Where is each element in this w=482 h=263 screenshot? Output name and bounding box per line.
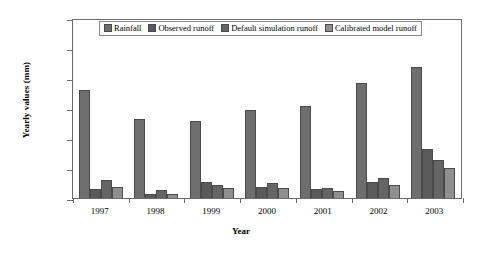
- bar-group: [350, 20, 405, 198]
- legend-swatch-icon: [325, 24, 333, 32]
- bar: [278, 188, 289, 199]
- bar: [333, 191, 344, 198]
- bar-group: [73, 20, 128, 198]
- x-tick-label: 2003: [404, 206, 464, 216]
- x-tick: [184, 198, 185, 203]
- bar: [300, 106, 311, 198]
- x-axis-title: Year: [0, 226, 482, 236]
- bar-group: [184, 20, 239, 198]
- bar: [389, 185, 400, 199]
- x-tick-label: 2002: [348, 206, 408, 216]
- x-tick-label: 2001: [293, 206, 353, 216]
- x-tick: [463, 198, 464, 203]
- bar: [367, 182, 378, 199]
- bar: [256, 187, 267, 198]
- bar: [322, 188, 333, 199]
- bar: [201, 182, 212, 198]
- bar: [156, 190, 167, 198]
- legend-label: Rainfall: [114, 24, 141, 33]
- legend-label: Calibrated model runoff: [335, 24, 417, 33]
- bar: [212, 185, 223, 199]
- bar: [422, 149, 433, 198]
- legend-swatch-icon: [148, 24, 156, 32]
- bar-group: [239, 20, 294, 198]
- bar: [90, 189, 101, 198]
- x-tick: [73, 198, 74, 203]
- bar: [112, 187, 123, 198]
- bar: [378, 178, 389, 198]
- bar: [267, 183, 278, 198]
- legend-item: Default simulation runoff: [221, 24, 318, 33]
- legend-swatch-icon: [104, 24, 112, 32]
- bar: [311, 189, 322, 198]
- legend-item: Rainfall: [104, 24, 141, 33]
- bar: [134, 119, 145, 198]
- bar: [101, 180, 112, 198]
- bar-group: [128, 20, 183, 198]
- bar: [444, 168, 455, 198]
- legend-label: Default simulation runoff: [231, 24, 318, 33]
- bar-groups: [73, 20, 461, 198]
- bar: [79, 90, 90, 198]
- x-tick-label: 1997: [70, 206, 130, 216]
- x-tick: [240, 198, 241, 203]
- bar-group: [295, 20, 350, 198]
- x-tick-label: 2000: [237, 206, 297, 216]
- bar: [167, 194, 178, 198]
- bar: [356, 83, 367, 199]
- x-tick: [296, 198, 297, 203]
- x-tick-label: 1998: [126, 206, 186, 216]
- bar: [433, 160, 444, 198]
- x-tick: [407, 198, 408, 203]
- bar: [411, 67, 422, 198]
- y-axis-title: Yearly values (mm): [21, 30, 31, 170]
- bar-group: [406, 20, 461, 198]
- x-tick: [129, 198, 130, 203]
- x-tick: [352, 198, 353, 203]
- plot-area: [72, 19, 462, 199]
- bar: [190, 121, 201, 198]
- bar: [223, 188, 234, 198]
- chart-legend: RainfallObserved runoffDefault simulatio…: [99, 21, 422, 36]
- bar: [245, 110, 256, 198]
- legend-item: Observed runoff: [148, 24, 214, 33]
- bar-chart: Yearly values (mm) 020040060080010001200…: [0, 0, 482, 263]
- legend-item: Calibrated model runoff: [325, 24, 417, 33]
- legend-label: Observed runoff: [158, 24, 214, 33]
- bar: [145, 194, 156, 199]
- x-tick-label: 1999: [181, 206, 241, 216]
- legend-swatch-icon: [221, 24, 229, 32]
